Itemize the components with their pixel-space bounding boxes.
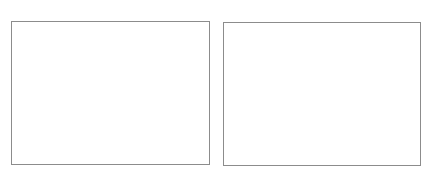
empty-panel-left bbox=[11, 21, 210, 165]
empty-panel-right bbox=[223, 22, 421, 166]
